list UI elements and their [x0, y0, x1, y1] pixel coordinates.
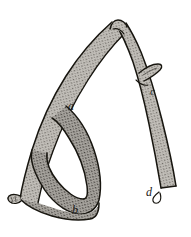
- basal-stub: [8, 195, 21, 204]
- label-c: c: [150, 85, 155, 97]
- label-a: a: [68, 99, 74, 113]
- basal-stub-right-outline: [153, 192, 161, 203]
- label-b: b: [72, 203, 78, 217]
- right-branch: [115, 23, 176, 188]
- label-d: d: [146, 185, 153, 199]
- figure-container: a b c d: [0, 0, 191, 237]
- basal-stub-right: [153, 192, 161, 203]
- botanical-figure-illustration: a b c d: [0, 0, 191, 237]
